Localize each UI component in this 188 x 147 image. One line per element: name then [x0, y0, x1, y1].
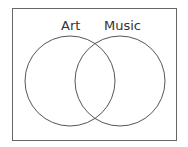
universal-set-box: [13, 9, 177, 141]
venn-diagram: Art Music: [0, 0, 188, 147]
music-label: Music: [104, 18, 141, 33]
art-label: Art: [61, 18, 80, 33]
music-circle: [75, 36, 165, 126]
art-circle: [25, 36, 115, 126]
